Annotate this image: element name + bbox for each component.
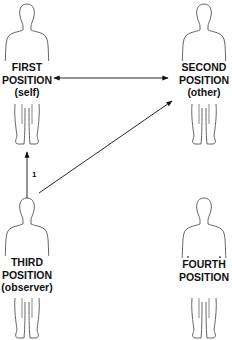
label-second-role: (other) — [179, 86, 229, 99]
label-third-role: (observer) — [1, 281, 52, 294]
label-second-subtitle: POSITION — [179, 74, 229, 87]
label-first-position: FIRST POSITION (self) — [1, 61, 53, 99]
label-third-position: THIRD POSITION (observer) — [0, 256, 53, 294]
label-third-title: THIRD — [1, 256, 52, 269]
label-fourth-title: FOURTH — [179, 258, 229, 271]
label-second-title: SECOND — [179, 61, 229, 74]
label-first-subtitle: POSITION — [2, 74, 52, 87]
arrow-label-1: 1 — [32, 170, 36, 179]
arrow-third-to-second — [39, 101, 172, 193]
label-fourth-subtitle: POSITION — [179, 271, 229, 284]
label-third-subtitle: POSITION — [1, 269, 52, 282]
label-second-position: SECOND POSITION (other) — [178, 61, 230, 99]
label-first-title: FIRST — [2, 61, 52, 74]
label-fourth-position: FOURTH POSITION — [178, 258, 230, 283]
label-first-role: (self) — [2, 86, 52, 99]
